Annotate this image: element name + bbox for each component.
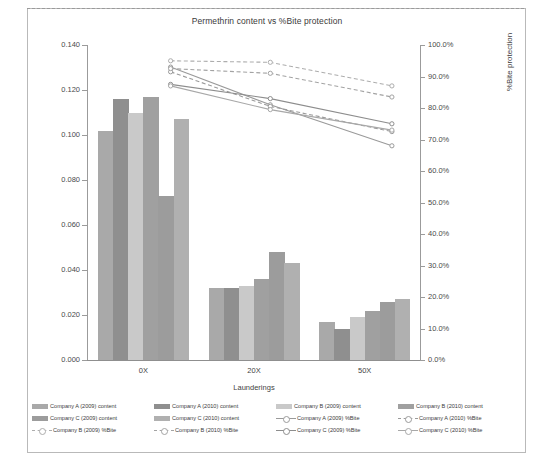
y-tick-left [82,135,87,136]
legend-item-label: Company C (2010) content [172,415,239,421]
legend-item-label: Company C (2009) %Bite [297,427,360,433]
y-tick-label-right: 0.0% [428,355,478,364]
y-tick-label-right: 10.0% [428,324,478,333]
legend-line-marker-icon [32,428,52,434]
legend-item[interactable]: Company C (2010) %Bite [398,424,482,436]
y-tick-label-left: 0.140 [40,40,80,49]
line-marker [268,71,272,75]
y-tick-left [82,360,87,361]
line-marker [390,84,394,88]
legend-line-marker-icon [276,428,296,434]
legend-item[interactable]: Company B (2010) content [398,400,483,412]
legend-item-label: Company A (2010) %Bite [419,415,482,421]
legend-item-label: Company B (2010) content [416,403,483,409]
legend-line-marker-icon [276,416,296,422]
legend-item[interactable]: Company A (2009) %Bite [276,412,360,424]
y-tick-left [82,225,87,226]
legend: Company A (2009) contentCompany A (2010)… [32,400,520,446]
legend-item-label: Company B (2010) %Bite [175,427,238,433]
y-tick-left [82,270,87,271]
legend-swatch-icon [32,416,48,421]
y-tick-right [420,329,425,330]
x-axis-title: Launderings [88,383,420,392]
y-tick-right [420,171,425,172]
line-series [169,82,395,126]
x-category-label: 20X [234,366,274,375]
y-tick-label-right: 80.0% [428,103,478,112]
legend-item[interactable]: Company B (2009) content [276,400,361,412]
y-tick-left [82,315,87,316]
y-tick-label-right: 30.0% [428,261,478,270]
y-tick-label-right: 90.0% [428,72,478,81]
legend-swatch-icon [32,404,48,409]
legend-swatch-icon [154,416,170,421]
y-tick-label-right: 60.0% [428,166,478,175]
legend-line-marker-icon [398,428,418,434]
legend-item-label: Company A (2010) content [172,403,238,409]
chart-title: Permethrin content vs %Bite protection [0,16,534,26]
y-tick-label-left: 0.080 [40,175,80,184]
y-tick-label-right: 20.0% [428,292,478,301]
legend-item[interactable]: Company C (2009) content [32,412,117,424]
y-tick-left [82,90,87,91]
y-tick-right [420,108,425,109]
y-tick-right [420,234,425,235]
legend-item-label: Company C (2009) content [50,415,117,421]
legend-item[interactable]: Company C (2009) %Bite [276,424,360,436]
frame-top-dashed-rule [27,8,524,9]
legend-item[interactable]: Company B (2009) %Bite [32,424,116,436]
legend-line-marker-icon [154,428,174,434]
legend-line-marker-icon [398,416,418,422]
y-tick-right [420,203,425,204]
legend-item-label: Company C (2010) %Bite [419,427,482,433]
y-axis-right-title: %Bite protection [505,0,514,152]
y-tick-right [420,266,425,267]
x-category-label: 50X [345,366,385,375]
line-marker [268,60,272,64]
legend-item-label: Company B (2009) content [294,403,361,409]
y-tick-label-right: 50.0% [428,198,478,207]
legend-item-label: Company B (2009) %Bite [53,427,116,433]
y-tick-label-left: 0.000 [40,355,80,364]
chart-page: Permethrin content vs %Bite protection P… [0,0,534,465]
y-tick-right [420,45,425,46]
legend-swatch-icon [154,404,170,409]
y-tick-left [82,180,87,181]
legend-item[interactable]: Company C (2010) content [154,412,239,424]
x-category-label: 0X [123,366,163,375]
legend-swatch-icon [398,404,414,409]
y-tick-right [420,297,425,298]
y-tick-label-left: 0.060 [40,220,80,229]
y-tick-label-right: 100.0% [428,40,478,49]
legend-swatch-icon [276,404,292,409]
y-tick-label-left: 0.120 [40,85,80,94]
x-axis-line [87,360,421,361]
line-marker [390,128,394,132]
legend-item[interactable]: Company A (2009) content [32,400,116,412]
line-marker [390,122,394,126]
line-series [169,59,395,88]
line-series [169,65,395,148]
plot-area [88,45,420,360]
legend-item[interactable]: Company B (2010) %Bite [154,424,238,436]
line-marker [169,67,173,71]
y-tick-right [420,77,425,78]
line-marker [268,108,272,112]
line-marker [169,84,173,88]
line-marker [390,95,394,99]
y-tick-label-left: 0.100 [40,130,80,139]
legend-item-label: Company A (2009) content [50,403,116,409]
legend-item[interactable]: Company A (2010) content [154,400,238,412]
line-marker [169,59,173,63]
legend-item-label: Company A (2009) %Bite [297,415,360,421]
y-tick-label-right: 70.0% [428,135,478,144]
legend-item[interactable]: Company A (2010) %Bite [398,412,482,424]
y-tick-left [82,45,87,46]
line-marker [268,97,272,101]
line-marker [390,144,394,148]
y-tick-right [420,140,425,141]
y-tick-label-right: 40.0% [428,229,478,238]
y-tick-label-left: 0.040 [40,265,80,274]
y-tick-right [420,360,425,361]
y-tick-label-left: 0.020 [40,310,80,319]
